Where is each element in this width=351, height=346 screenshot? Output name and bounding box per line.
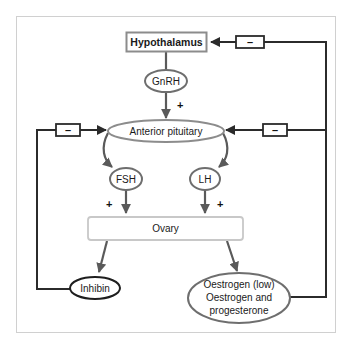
inhibitor-box-middle-right: – bbox=[263, 124, 287, 137]
node-label: Ovary bbox=[152, 223, 179, 234]
node-anterior-pituitary: Anterior pituitary bbox=[108, 120, 224, 142]
feedback-inhibin-to-pituitary bbox=[37, 130, 106, 289]
node-inhibin: Inhibin bbox=[70, 277, 120, 299]
node-ovary: Ovary bbox=[88, 217, 243, 240]
node-label: Inhibin bbox=[80, 283, 109, 294]
node-label: LH bbox=[199, 174, 212, 185]
inhibit-sign: – bbox=[65, 124, 71, 136]
node-hypothalamus: Hypothalamus bbox=[127, 33, 207, 52]
edge-pituitary-fsh bbox=[104, 133, 112, 167]
node-oestrogen: Oestrogen (low) Oestrogen and progestero… bbox=[188, 273, 290, 323]
stimulate-sign: + bbox=[106, 198, 112, 210]
node-label: Hypothalamus bbox=[130, 36, 203, 48]
node-fsh: FSH bbox=[110, 168, 142, 190]
edge-ovary-inhibin bbox=[99, 241, 107, 272]
node-lh: LH bbox=[190, 168, 220, 190]
hormone-feedback-diagram: – – – + + + Hypothalamus GnR bbox=[0, 0, 351, 346]
inhibit-sign: – bbox=[247, 36, 253, 48]
node-label: FSH bbox=[116, 174, 136, 185]
node-label: GnRH bbox=[152, 76, 180, 87]
edge-ovary-oestrogen bbox=[227, 241, 237, 271]
node-label: Anterior pituitary bbox=[130, 126, 203, 137]
node-label-line3: progesterone bbox=[210, 305, 269, 316]
edge-pituitary-lh bbox=[219, 133, 227, 167]
inhibitor-box-left: – bbox=[56, 124, 80, 137]
node-gnrh: GnRH bbox=[145, 70, 187, 92]
node-label-line1: Oestrogen (low) bbox=[203, 279, 274, 290]
inhibit-sign: – bbox=[272, 124, 278, 136]
node-label-line2: Oestrogen and bbox=[206, 292, 272, 303]
stimulate-sign: + bbox=[177, 99, 183, 111]
inhibitor-box-top: – bbox=[236, 36, 264, 49]
feedback-oestrogen-to-hypothalamus bbox=[211, 42, 326, 297]
stimulate-sign: + bbox=[217, 198, 223, 210]
